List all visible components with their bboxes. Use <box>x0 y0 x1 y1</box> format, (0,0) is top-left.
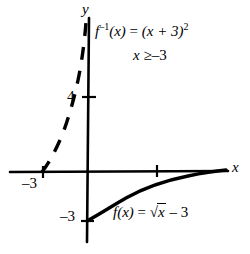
inverse-function-equation: f–1(x) = (x + 3)2 <box>95 22 189 39</box>
graph-figure: y x 4 –3 –3 f–1(x) = (x + 3)2 x ≥–3 f(x)… <box>0 0 250 254</box>
fn-minus-three: – 3 <box>169 204 188 220</box>
domain-value: –3 <box>152 47 167 63</box>
x-tick-label-minus-3: –3 <box>22 176 37 191</box>
inverse-body: (x + 3) <box>142 23 184 39</box>
domain-restriction: x ≥–3 <box>133 48 167 63</box>
domain-relation: ≥ <box>143 47 151 63</box>
y-axis-label: y <box>82 2 89 17</box>
radicand: x <box>157 203 166 220</box>
x-axis-label: x <box>232 160 239 175</box>
inverse-exponent: –1 <box>99 21 109 32</box>
domain-variable: x <box>133 47 140 63</box>
inverse-argument: (x) <box>109 23 126 39</box>
inverse-equals: = <box>130 23 138 39</box>
y-axis <box>87 18 89 242</box>
curve-parabola-dashed <box>42 22 86 172</box>
fn-equals: = <box>138 204 146 220</box>
y-tick-label-minus-3: –3 <box>60 209 75 224</box>
fn-argument: (x) <box>117 204 134 220</box>
y-tick-label-4: 4 <box>67 89 75 104</box>
inverse-power: 2 <box>184 21 189 32</box>
function-equation: f(x) = √x – 3 <box>113 205 188 220</box>
